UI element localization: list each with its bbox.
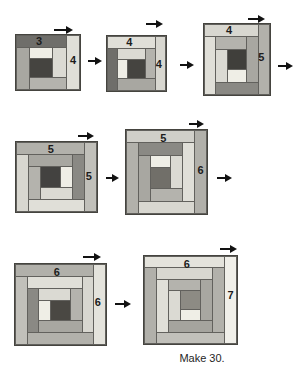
log-strip-s5 — [216, 83, 257, 94]
log-strip-s9 — [85, 143, 96, 211]
log-strip-s7 — [205, 25, 258, 36]
log-strip-s9 — [16, 277, 27, 344]
log-strip-s3 — [71, 289, 82, 320]
log-strip-s6 — [28, 277, 82, 288]
log-strip-s9 — [157, 333, 224, 343]
log-strip-s3 — [151, 189, 182, 200]
rotate-arrow-icon — [83, 256, 95, 258]
make-quantity-caption: Make 30. — [179, 352, 224, 364]
log-strip-s1 — [228, 70, 246, 81]
rotate-arrow-icon — [78, 135, 88, 137]
log-strip-s2 — [216, 50, 226, 82]
center-patch — [128, 60, 144, 78]
log-strip-s8 — [213, 268, 224, 331]
center-patch — [181, 291, 200, 309]
log-strip-s7 — [83, 277, 94, 332]
log-strip-s3 — [146, 49, 155, 79]
log-strip-s6 — [108, 37, 155, 48]
log-strip-s2 — [118, 49, 144, 60]
quilt-piecing-diagram: 34444555566667 Make 30. — [0, 0, 301, 375]
log-strip-s11 — [145, 257, 224, 267]
log-strip-s7 — [17, 155, 28, 211]
log-strip-s4 — [247, 37, 257, 81]
log-strip-s8 — [127, 143, 138, 213]
log-strip-s2 — [171, 156, 182, 188]
step-3-block: 45 — [203, 23, 271, 96]
log-strip-s7 — [156, 37, 165, 90]
step-5-block: 56 — [125, 129, 208, 215]
log-strip-s5 — [169, 321, 212, 331]
log-strip-s4 — [29, 155, 72, 166]
center-patch — [30, 59, 52, 77]
log-strip-s4 — [201, 280, 212, 321]
rotate-arrow-icon — [248, 18, 259, 20]
log-strip-s10 — [145, 268, 156, 343]
rotate-arrow-icon — [146, 23, 157, 25]
step-2-block: 44 — [106, 35, 167, 92]
step-1-block: 34 — [15, 34, 81, 91]
log-strip-s3 — [216, 37, 246, 48]
log-strip-s5 — [73, 155, 84, 199]
next-step-arrow-icon — [180, 64, 188, 66]
next-step-arrow-icon — [217, 177, 226, 179]
center-patch — [151, 168, 170, 188]
log-strip-s2 — [169, 291, 180, 320]
log-strip-s8 — [28, 333, 94, 344]
step-4-block: 55 — [15, 141, 98, 213]
log-strip-s1 — [39, 301, 50, 320]
log-strip-s1 — [30, 48, 52, 59]
log-strip-s4 — [139, 156, 150, 201]
log-strip-s1 — [61, 167, 72, 186]
next-step-arrow-icon — [106, 177, 113, 179]
rotate-arrow-icon — [189, 123, 198, 125]
log-strip-s6 — [157, 280, 168, 332]
center-patch — [41, 167, 60, 186]
log-strip-s6 — [205, 37, 215, 94]
log-strip-s4 — [118, 79, 155, 90]
center-patch — [228, 50, 246, 70]
log-strip-s9 — [127, 131, 194, 142]
rotate-arrow-icon — [220, 248, 231, 250]
log-strip-s2 — [39, 289, 69, 300]
log-strip-s12 — [225, 257, 236, 343]
log-strip-s8 — [17, 143, 84, 154]
log-strip-s6 — [67, 36, 79, 89]
log-strip-s10 — [195, 131, 206, 213]
log-strip-s2 — [41, 188, 72, 199]
log-strip-s7 — [157, 268, 212, 278]
log-strip-s6 — [29, 200, 84, 211]
log-strip-s1 — [151, 156, 170, 167]
next-step-arrow-icon — [278, 65, 287, 67]
log-strip-s3 — [30, 78, 65, 89]
log-strip-s11 — [94, 265, 105, 344]
log-strip-s8 — [259, 25, 269, 94]
next-step-arrow-icon — [115, 303, 125, 305]
log-strip-s7 — [139, 202, 194, 213]
center-patch — [51, 301, 70, 320]
log-strip-s5 — [28, 289, 39, 332]
next-step-arrow-icon — [88, 60, 96, 62]
log-strip-s3 — [29, 167, 40, 199]
log-strip-s1 — [118, 60, 127, 78]
log-strip-s5 — [139, 143, 182, 154]
step-6-block: 66 — [14, 263, 107, 346]
log-strip-s5 — [108, 49, 117, 90]
log-strip-s6 — [183, 143, 194, 200]
log-strip-s3 — [169, 280, 200, 290]
step-7-block: 67 — [143, 255, 238, 345]
log-strip-s1 — [181, 310, 200, 320]
log-strip-s4 — [39, 321, 81, 332]
rotate-arrow-icon — [54, 29, 67, 31]
log-strip-s5 — [17, 36, 66, 47]
log-strip-s2 — [53, 48, 65, 78]
log-strip-s10 — [16, 265, 93, 276]
log-strip-s4 — [17, 48, 29, 89]
